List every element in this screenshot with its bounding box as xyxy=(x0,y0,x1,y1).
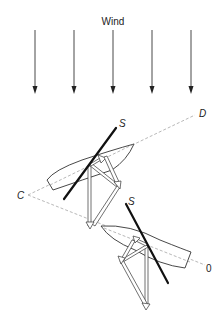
lower-sail-label: S xyxy=(128,196,135,207)
force-vector xyxy=(120,260,148,307)
wind-arrow xyxy=(33,30,38,94)
point-label-o: 0 xyxy=(206,263,212,274)
wind-arrow xyxy=(111,30,116,94)
force-vector xyxy=(145,246,148,306)
force-vector xyxy=(88,166,91,226)
point-label-d: D xyxy=(199,108,206,119)
point-label-c: C xyxy=(17,190,25,201)
upper-sail-label: S xyxy=(119,118,126,129)
wind-label: Wind xyxy=(102,16,125,27)
sailing-force-diagram: Wind C D 0 xyxy=(0,0,224,324)
lower-boat: S xyxy=(101,196,191,310)
force-vector xyxy=(92,186,120,226)
wind-arrow xyxy=(150,30,155,94)
wind-arrow xyxy=(189,30,194,94)
wind-arrow xyxy=(72,30,77,94)
wind-arrows xyxy=(33,30,194,94)
upper-boat: S xyxy=(47,118,134,229)
